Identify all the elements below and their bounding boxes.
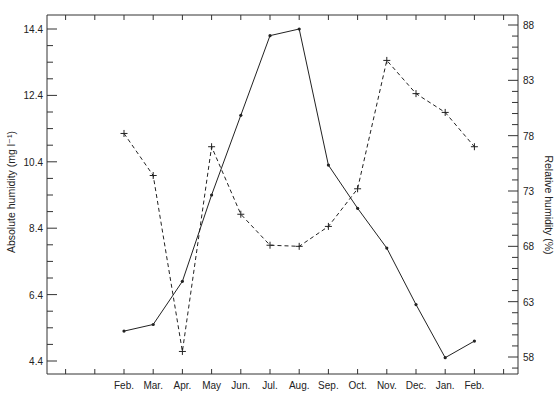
dot-marker-icon <box>210 193 213 196</box>
left-axis-title: Absolute humidity (mg l⁻¹) <box>5 131 17 253</box>
dot-marker-icon <box>356 207 359 210</box>
dot-marker-icon <box>444 356 447 359</box>
dot-marker-icon <box>122 330 125 333</box>
x-tick-label: Jun. <box>231 380 250 391</box>
x-tick-label: Dec. <box>406 380 427 391</box>
plus-marker-icon <box>121 130 128 137</box>
axis-ticks <box>47 15 518 374</box>
right-tick-label: 58 <box>523 352 535 363</box>
left-tick-label: 14.4 <box>24 24 44 35</box>
humidity-chart: Feb.Mar.Apr.MayJun.Jul.Aug.Sep.Oct.Nov.D… <box>0 0 559 395</box>
dot-marker-icon <box>181 280 184 283</box>
relative-humidity-line <box>124 60 474 351</box>
plus-marker-icon <box>179 348 186 355</box>
plus-marker-icon <box>471 143 478 150</box>
x-tick-label: Mar. <box>143 380 162 391</box>
dot-marker-icon <box>414 303 417 306</box>
right-tick-label: 88 <box>523 20 535 31</box>
tick-labels: Feb.Mar.Apr.MayJun.Jul.Aug.Sep.Oct.Nov.D… <box>24 20 535 391</box>
x-tick-label: Apr. <box>174 380 192 391</box>
plus-marker-icon <box>296 243 303 250</box>
left-tick-label: 10.4 <box>24 157 44 168</box>
x-tick-label: Nov. <box>377 380 397 391</box>
dot-marker-icon <box>298 27 301 30</box>
right-tick-label: 83 <box>523 75 535 86</box>
dot-marker-icon <box>239 114 242 117</box>
x-tick-label: May <box>202 380 221 391</box>
x-tick-label: Feb. <box>464 380 484 391</box>
x-tick-label: Jan. <box>436 380 455 391</box>
plus-marker-icon <box>413 90 420 97</box>
dot-marker-icon <box>385 247 388 250</box>
plot-frame <box>47 15 518 374</box>
dot-marker-icon <box>268 34 271 37</box>
left-tick-label: 4.4 <box>29 356 43 367</box>
right-tick-label: 63 <box>523 297 535 308</box>
left-tick-label: 8.4 <box>29 223 43 234</box>
x-tick-label: Aug. <box>289 380 310 391</box>
dot-marker-icon <box>473 339 476 342</box>
dot-marker-icon <box>152 323 155 326</box>
x-tick-label: Feb. <box>114 380 134 391</box>
right-axis-title: Relative humidity (%) <box>543 155 555 254</box>
right-tick-label: 78 <box>523 131 535 142</box>
x-tick-label: Oct. <box>348 380 366 391</box>
right-tick-label: 73 <box>523 186 535 197</box>
plus-marker-icon <box>150 172 157 179</box>
absolute-humidity-line <box>124 29 474 358</box>
x-tick-label: Jul. <box>262 380 278 391</box>
plus-marker-icon <box>325 223 332 230</box>
plus-marker-icon <box>208 143 215 150</box>
left-tick-label: 12.4 <box>24 90 44 101</box>
left-tick-label: 6.4 <box>29 290 43 301</box>
data-series <box>121 27 478 359</box>
dot-marker-icon <box>327 164 330 167</box>
x-tick-label: Sep. <box>318 380 339 391</box>
right-tick-label: 68 <box>523 241 535 252</box>
